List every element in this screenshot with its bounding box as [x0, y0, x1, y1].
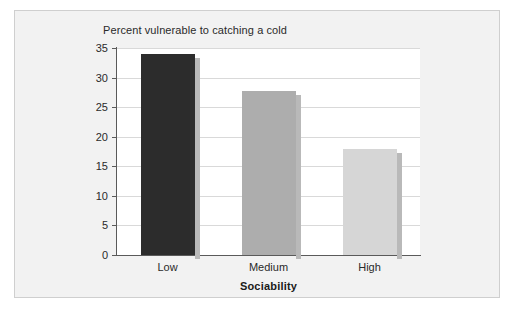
x-axis-tick-label: High [358, 261, 381, 273]
y-axis-tick-label: 30 [84, 72, 108, 84]
y-axis-tick-mark [112, 166, 117, 167]
x-axis-title: Sociability [117, 280, 420, 292]
bar [242, 91, 296, 255]
gridline [117, 48, 420, 49]
y-axis-tick-label: 20 [84, 131, 108, 143]
y-axis-tick-mark [112, 48, 117, 49]
bar-shadow [296, 95, 301, 259]
bar-body [141, 54, 195, 255]
y-axis-tick-mark [112, 137, 117, 138]
y-axis-tick-label: 35 [84, 42, 108, 54]
y-axis-tick-label: 5 [84, 219, 108, 231]
bar-body [242, 91, 296, 255]
y-axis-tick-mark [112, 78, 117, 79]
y-axis-tick-label: 25 [84, 101, 108, 113]
y-axis-tick-mark [112, 255, 117, 256]
chart-figure: Percent vulnerable to catching a cold 05… [0, 0, 514, 310]
x-axis-tick-label: Medium [249, 261, 288, 273]
y-axis-tick-mark [112, 107, 117, 108]
y-axis-tick-mark [112, 196, 117, 197]
y-axis-tick-label: 10 [84, 190, 108, 202]
chart-title: Percent vulnerable to catching a cold [103, 24, 287, 36]
bar [343, 149, 397, 255]
bar [141, 54, 195, 255]
bar-shadow [195, 58, 200, 259]
bar-body [343, 149, 397, 255]
x-axis-tick-label: Low [157, 261, 177, 273]
y-axis-tick-label: 15 [84, 160, 108, 172]
y-axis-tick-mark [112, 225, 117, 226]
bar-shadow [397, 153, 402, 259]
x-axis-line [116, 255, 421, 256]
y-axis-tick-label: 0 [84, 249, 108, 261]
